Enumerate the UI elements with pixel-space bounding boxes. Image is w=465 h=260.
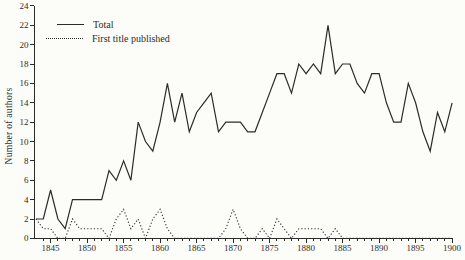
x-tick-label: 1880	[297, 243, 316, 253]
y-tick-label: 16	[20, 78, 30, 88]
legend-label-total: Total	[93, 19, 113, 30]
x-tick-label: 1890	[370, 243, 389, 253]
y-tick-label: 12	[20, 117, 29, 127]
y-tick-label: 2	[24, 214, 29, 224]
x-tick-label: 1845	[42, 243, 61, 253]
total-line	[36, 25, 452, 228]
total-line-sample-icon	[57, 24, 84, 25]
x-tick-label: 1855	[115, 243, 134, 253]
chart-page: 0246810121416182022241845185018551860186…	[0, 0, 465, 260]
y-tick-label: 8	[24, 156, 29, 166]
x-tick-label: 1895	[407, 243, 426, 253]
first-title-line-sample-icon	[46, 38, 83, 39]
y-tick-label: 4	[24, 195, 29, 205]
legend-item-first-title: First title published	[46, 32, 170, 46]
y-tick-label: 14	[20, 98, 30, 108]
y-tick-label: 24	[20, 1, 30, 11]
x-tick-label: 1900	[443, 243, 462, 253]
y-tick-label: 10	[20, 137, 30, 147]
y-tick-label: 6	[24, 175, 29, 185]
x-tick-label: 1865	[188, 243, 207, 253]
x-tick-label: 1860	[151, 243, 170, 253]
first-title-published-line	[36, 209, 452, 238]
y-axis-title: Number of authors	[4, 56, 14, 196]
y-tick-label: 20	[20, 40, 30, 50]
y-tick-label: 22	[20, 20, 29, 30]
y-tick-label: 18	[20, 59, 30, 69]
x-tick-label: 1870	[224, 243, 243, 253]
x-tick-label: 1885	[334, 243, 353, 253]
x-tick-label: 1850	[78, 243, 97, 253]
x-tick-label: 1875	[261, 243, 280, 253]
legend: Total First title published	[46, 18, 170, 45]
y-tick-label: 0	[24, 233, 29, 243]
legend-label-first-title: First title published	[92, 33, 170, 44]
legend-item-total: Total	[46, 18, 170, 32]
